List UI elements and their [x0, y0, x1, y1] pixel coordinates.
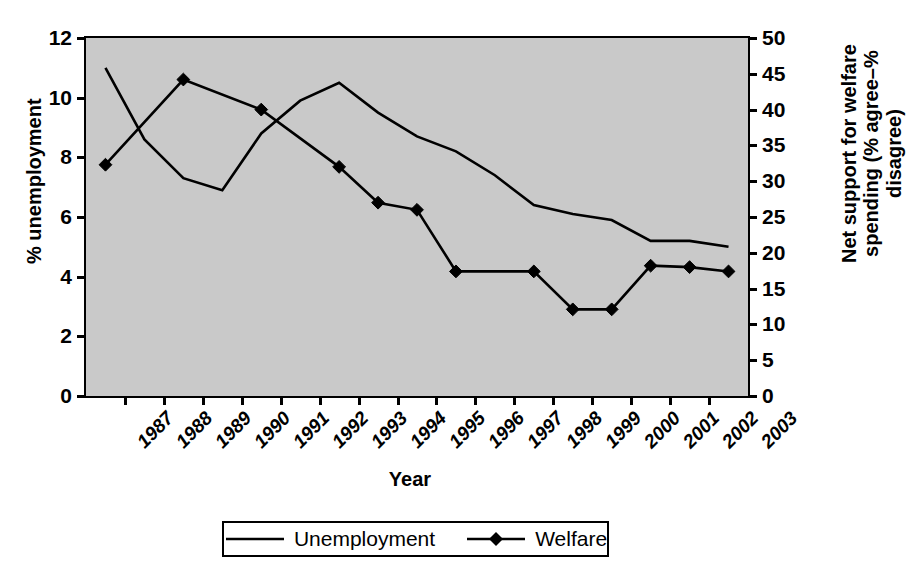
y-axis-left-tick-label: 10: [32, 87, 72, 108]
y-axis-right-tick-label: 0: [762, 385, 806, 406]
y-axis-left-tick-label: 12: [32, 27, 72, 48]
y-axis-right-tick-label: 45: [762, 63, 806, 84]
legend-line-diamond-icon: [465, 530, 527, 548]
y-axis-right-tick-label: 15: [762, 278, 806, 299]
y-axis-right-tick-label: 40: [762, 99, 806, 120]
x-axis-tick-label: 1993: [367, 408, 410, 451]
y-axis-right-tick-label: 10: [762, 313, 806, 334]
y-axis-left-tick-label: 8: [32, 146, 72, 167]
y-axis-left-tick-label: 6: [32, 206, 72, 227]
series-layer: [86, 38, 748, 396]
y-axis-right-tick-label: 30: [762, 170, 806, 191]
y-axis-right-tick-label: 20: [762, 242, 806, 263]
x-axis-tick-label: 1988: [173, 408, 216, 451]
data-point-marker: [450, 265, 463, 278]
legend-label: Unemployment: [294, 527, 435, 551]
x-axis-tick-label: 1995: [445, 408, 488, 451]
x-axis-tick-label: 1994: [406, 408, 449, 451]
y-axis-right-tick-label: 25: [762, 206, 806, 227]
data-point-marker: [411, 203, 424, 216]
x-axis-tick-label: 1999: [601, 408, 644, 451]
y-axis-right-tick-label: 5: [762, 349, 806, 370]
y-axis-right-tick-label: 35: [762, 134, 806, 155]
x-axis-tick-label: 1990: [251, 408, 294, 451]
data-point-marker: [683, 261, 696, 274]
data-point-marker: [722, 265, 735, 278]
x-axis-tick-label: 2000: [640, 408, 683, 451]
x-axis-tick-label: 1987: [134, 408, 177, 451]
y-axis-left-tick-label: 4: [32, 266, 72, 287]
series-line-welfare: [105, 80, 728, 310]
x-axis-tick-label: 1996: [484, 408, 527, 451]
x-axis-tick-label: 1992: [329, 408, 372, 451]
x-axis-tick-label: 2001: [679, 408, 722, 451]
x-axis-tick-label: 2003: [757, 408, 800, 451]
series-line-unemployment: [105, 68, 728, 247]
plot-area: [84, 36, 750, 398]
x-axis-title: Year: [0, 468, 820, 490]
x-axis-tick-label: 1997: [523, 408, 566, 451]
legend-item-welfare: Welfare: [465, 527, 607, 551]
x-axis-tick-label: 2002: [718, 408, 761, 451]
y-axis-right-tick-label: 50: [762, 27, 806, 48]
x-axis-tick-label: 1991: [290, 408, 333, 451]
x-axis-tick-label: 1998: [562, 408, 605, 451]
legend-item-unemployment: Unemployment: [224, 527, 435, 551]
chart-legend: UnemploymentWelfare: [222, 521, 609, 557]
legend-line-icon: [224, 530, 286, 548]
y-axis-right-title: Net support for welfare spending (% agre…: [838, 4, 905, 304]
x-axis-tick-label: 1989: [212, 408, 255, 451]
legend-label: Welfare: [535, 527, 607, 551]
y-axis-left-tick-label: 2: [32, 325, 72, 346]
y-axis-left-tick-label: 0: [32, 385, 72, 406]
